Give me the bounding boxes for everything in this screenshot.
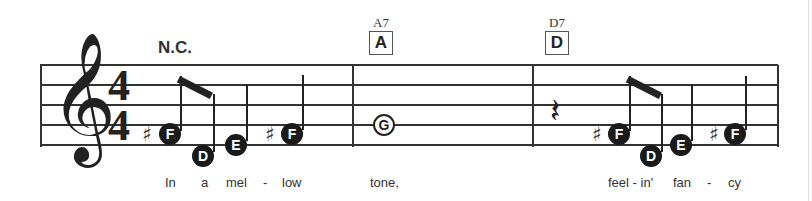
- treble-clef-icon: 𝄞: [50, 40, 116, 152]
- time-signature-top: 4: [108, 66, 130, 106]
- staff-line: [40, 64, 778, 66]
- note-stem: [246, 85, 248, 141]
- note-stem: [213, 94, 215, 152]
- note-f: F: [724, 123, 746, 145]
- barline: [532, 65, 534, 147]
- sharp-icon: ♯: [142, 124, 152, 144]
- chord-name-a7: A7: [373, 15, 389, 31]
- note-e: E: [670, 134, 692, 156]
- note-stem: [302, 75, 304, 130]
- note-f: F: [159, 123, 181, 145]
- lyric: a: [201, 175, 208, 190]
- note-stem: [661, 94, 663, 152]
- lyric: cy: [728, 175, 741, 190]
- barline: [40, 65, 42, 147]
- sharp-icon: ♯: [709, 124, 719, 144]
- sharp-icon: ♯: [592, 124, 602, 144]
- note-e: E: [225, 134, 247, 156]
- note-f: F: [608, 123, 630, 145]
- chord-name-d7: D7: [549, 15, 565, 31]
- note-g-whole: G: [373, 114, 395, 136]
- staff-line: [40, 104, 778, 106]
- note-stem: [691, 85, 693, 141]
- chord-box-d: D: [545, 31, 569, 55]
- quarter-rest-icon: 𝄽: [550, 90, 560, 131]
- chord-no-chord: N.C.: [158, 38, 192, 58]
- staff-line: [40, 84, 778, 86]
- page-edge: [808, 0, 809, 201]
- note-stem: [745, 76, 747, 130]
- lyric: tone,: [370, 175, 399, 190]
- eighth-beam: [626, 76, 662, 99]
- barline: [777, 65, 779, 147]
- note-d: D: [640, 145, 662, 167]
- barline: [352, 65, 354, 147]
- lyric: -: [707, 175, 711, 190]
- lyric: In: [165, 175, 176, 190]
- lyric: mel: [226, 175, 247, 190]
- lyric: low: [282, 175, 302, 190]
- lyric: fan: [673, 175, 691, 190]
- time-signature-bottom: 4: [108, 106, 130, 146]
- note-f: F: [281, 123, 303, 145]
- sharp-icon: ♯: [265, 124, 275, 144]
- chord-box-a: A: [369, 31, 393, 55]
- eighth-beam: [177, 76, 213, 99]
- lyric: -: [263, 175, 267, 190]
- lyric: feel - in': [608, 175, 653, 190]
- note-d: D: [192, 145, 214, 167]
